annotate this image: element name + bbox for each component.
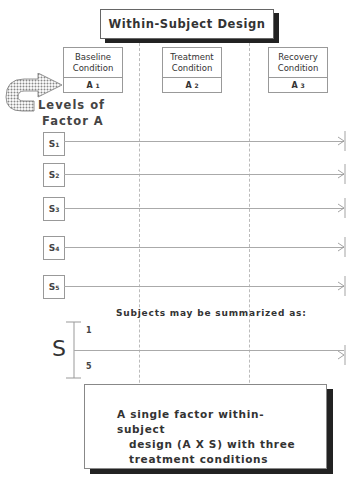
subject-box: S2	[43, 163, 65, 187]
factor-label-line2: Factor A	[38, 113, 105, 129]
subject-box: S1	[43, 132, 65, 156]
summary-top-index: 1	[86, 326, 92, 335]
divider-dashed-2	[249, 38, 250, 438]
subject-box: S5	[43, 275, 65, 299]
condition-name: RecoveryCondition	[269, 48, 327, 78]
summary-arrow-line	[74, 350, 344, 351]
subject-box: S3	[43, 197, 65, 221]
description-line2: design (A X S) with three	[117, 437, 307, 452]
description-text: A single factor within-subject design (A…	[117, 407, 307, 467]
condition-level: A 1	[64, 78, 122, 92]
summary-symbol: S	[52, 336, 66, 361]
levels-of-factor-label: Levels of Factor A	[38, 97, 105, 129]
description-line3: treatment conditions	[117, 452, 307, 467]
summary-caption: Subjects may be summarized as:	[116, 308, 307, 318]
condition-level: A 3	[269, 78, 327, 92]
subject-box: S4	[43, 236, 65, 260]
arrowheads	[334, 125, 354, 385]
subject-arrow-line	[64, 208, 344, 209]
condition-box-recovery: RecoveryCondition A 3	[268, 47, 328, 93]
condition-level: A 2	[163, 78, 221, 92]
condition-box-baseline: BaselineCondition A 1	[63, 47, 123, 93]
factor-label-line1: Levels of	[38, 97, 105, 113]
subject-arrow-line	[64, 247, 344, 248]
subject-arrow-line	[64, 286, 344, 287]
title-text: Within-Subject Design	[108, 17, 265, 31]
description-box: A single factor within-subject design (A…	[84, 384, 327, 469]
condition-box-treatment: TreatmentCondition A 2	[162, 47, 222, 93]
condition-name: TreatmentCondition	[163, 48, 221, 78]
diagram-title: Within-Subject Design	[100, 9, 274, 39]
subject-arrow-line	[64, 174, 344, 175]
divider-dashed-1	[139, 38, 140, 438]
description-line1: A single factor within-subject	[117, 407, 307, 437]
summary-bottom-index: 5	[86, 362, 92, 371]
condition-name: BaselineCondition	[64, 48, 122, 78]
subject-arrow-line	[64, 141, 344, 142]
